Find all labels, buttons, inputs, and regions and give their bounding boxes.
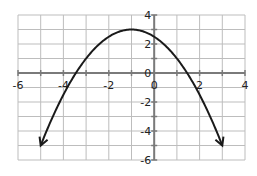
parabola-graph: -6-4-2024420-2-4-6 (0, 0, 257, 176)
y-tick-label: 0 (144, 67, 151, 80)
y-tick-label: 2 (144, 38, 151, 51)
y-tick-label: -6 (140, 154, 151, 167)
x-tick-label: -4 (58, 79, 69, 92)
x-tick-label: 4 (242, 79, 249, 92)
x-tick-label: -6 (13, 79, 24, 92)
y-tick-label: -2 (140, 96, 151, 109)
y-tick-label: 4 (144, 9, 151, 22)
x-tick-label: -2 (103, 79, 114, 92)
y-tick-label: -4 (140, 125, 151, 138)
grid (18, 15, 245, 160)
x-tick-label: 0 (151, 79, 158, 92)
